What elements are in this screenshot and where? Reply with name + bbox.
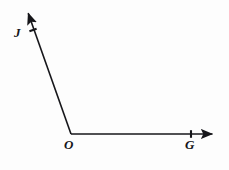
geometry-figure: J O G — [0, 0, 229, 170]
point-label-j: J — [14, 26, 21, 39]
point-label-g: G — [185, 138, 194, 151]
ray-oj — [28, 13, 71, 134]
angle-diagram-svg — [0, 0, 229, 170]
point-label-o: O — [64, 138, 73, 151]
point-marker-j — [29, 29, 36, 32]
